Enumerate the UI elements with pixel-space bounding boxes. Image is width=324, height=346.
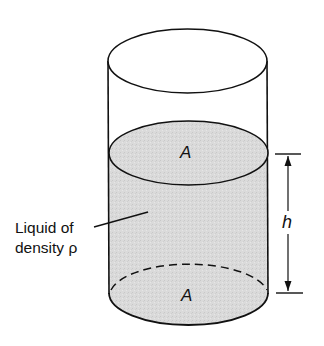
liquid-label-line1: Liquid of <box>15 218 77 238</box>
cylinder-right-wall <box>267 61 268 294</box>
cylinder-diagram: A A h Liquid of density ρ <box>0 0 324 346</box>
cylinder-top-rim <box>108 29 267 93</box>
arrow-up-icon <box>285 156 292 166</box>
bottom-area-label: A <box>181 286 192 306</box>
arrow-down-icon <box>285 281 292 291</box>
cylinder-left-wall <box>108 61 109 294</box>
liquid-label: Liquid of density ρ <box>15 218 77 258</box>
top-area-label: A <box>180 143 191 163</box>
liquid-label-line2: density ρ <box>15 238 77 258</box>
height-label: h <box>281 211 293 234</box>
cylinder-drawing <box>0 0 324 346</box>
